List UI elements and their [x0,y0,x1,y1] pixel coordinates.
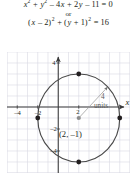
radius-units-label: units [94,102,108,110]
point-right [117,116,122,121]
equation-block: x2 + y2 – 4x + 2y – 11 = 0 or (x – 2)2 +… [0,0,137,28]
y-tick-label-neg2: –2 [49,125,57,132]
x-tick-label-neg4: –4 [13,109,21,116]
figure-root: x2 + y2 – 4x + 2y – 11 = 0 or (x – 2)2 +… [0,0,137,187]
center-point [77,116,81,120]
radius-value-label: 4 [101,93,105,101]
x-tick-label-2: 2 [76,108,79,115]
x-axis-label: x [125,97,130,107]
equation-general-form: x2 + y2 – 4x + 2y – 11 = 0 [0,0,137,10]
circle-plot: y x –4 –2 2 4 –2 –4 4 units [7,52,130,173]
axes [7,57,124,173]
point-top [76,72,81,77]
point-bottom [76,160,81,165]
equation-connector: or [0,10,137,18]
grid-lines [7,52,130,173]
center-coordinate-label: (2, –1) [59,129,82,139]
point-left [35,116,40,121]
equation-standard-form: (x – 2)2 + (y + 1)2 = 16 [0,18,137,28]
